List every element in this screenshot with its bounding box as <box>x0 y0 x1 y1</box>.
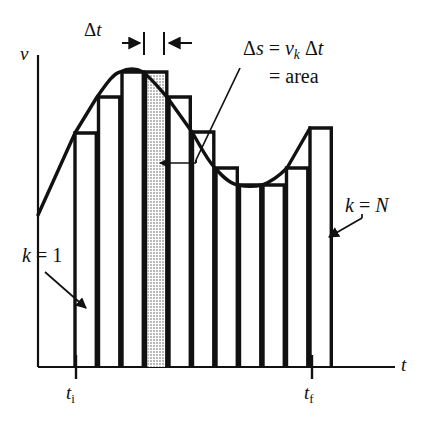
rectangle-bar-10 <box>287 168 308 367</box>
rectangle-bar-7 <box>216 168 237 367</box>
tick-label-t-initial: ti <box>66 383 75 406</box>
k-last-leader-arrow <box>329 218 362 237</box>
k-last-leader-group <box>329 214 362 237</box>
velocity-curve-group <box>38 69 310 215</box>
delta-s-formula-line1: Δs = vk Δt <box>243 38 323 63</box>
velocity-curve <box>38 69 310 215</box>
riemann-rectangles <box>75 72 331 367</box>
k-first-label: k = 1 <box>22 245 62 266</box>
rectangle-bar-3 <box>122 72 143 367</box>
k-last-label: k = N <box>345 195 389 216</box>
k-first-leader-group <box>45 272 86 308</box>
rectangle-bar-9 <box>263 185 284 367</box>
rectangle-bar-11 <box>310 128 331 367</box>
highlighted-strip-group <box>148 74 166 367</box>
rectangle-bar-1 <box>75 133 96 367</box>
rectangle-bar-2 <box>99 97 120 367</box>
delta-t-measure-group <box>122 32 192 55</box>
figure-canvas <box>0 0 429 436</box>
axis-label-v: v <box>20 44 28 64</box>
delta-s-formula-line2: = area <box>269 66 319 87</box>
k-first-leader-arrow <box>45 272 86 308</box>
delta-s-leader-diagonal <box>196 68 240 160</box>
tick-label-t-final: tf <box>304 383 314 406</box>
rectangle-bar-6 <box>193 132 214 367</box>
rectangle-bar-5 <box>169 97 190 367</box>
delta-t-label: Δt <box>84 20 102 40</box>
highlighted-strip <box>148 74 166 367</box>
velocity-time-figure: v t Δt Δs = vk Δt = area k = 1 k = N ti … <box>0 0 429 436</box>
rectangle-bar-8 <box>240 185 261 367</box>
axis-label-t: t <box>401 355 406 375</box>
